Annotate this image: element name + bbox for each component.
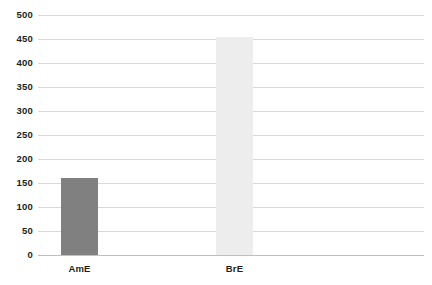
x-tick-label-ame: AmE — [40, 264, 120, 274]
plot-area — [0, 0, 432, 285]
bar-bre[interactable] — [216, 37, 253, 255]
bar-chart: 050100150200250300350400450500 AmEBrE — [0, 0, 432, 285]
x-tick-label-bre: BrE — [195, 264, 275, 274]
bar-ame[interactable] — [61, 178, 98, 255]
